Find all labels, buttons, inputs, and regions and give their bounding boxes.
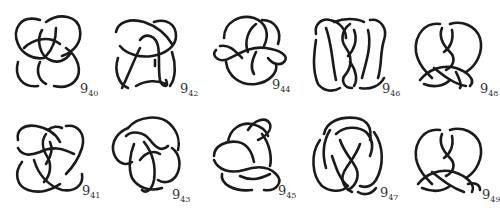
knot-9-44: 944	[200, 0, 300, 104]
knot-label-9-48: 948	[480, 82, 498, 98]
knot-9-47: 947	[300, 104, 400, 208]
knot-9-48: 948	[400, 0, 500, 104]
knot-9-45: 945	[200, 104, 300, 208]
knot-label-9-44: 944	[272, 78, 290, 94]
knot-9-41: 941	[0, 104, 100, 208]
knot-9-46: 946	[300, 0, 400, 104]
knot-9-40: 940	[0, 0, 100, 104]
knot-label-9-46: 946	[382, 82, 400, 98]
knot-9-49: 949	[400, 104, 500, 208]
knot-9-43: 943	[100, 104, 200, 208]
knot-9-42: 942	[100, 0, 200, 104]
knot-label-9-41: 941	[82, 184, 100, 200]
knot-label-9-43: 943	[172, 188, 190, 204]
knot-label-9-49: 949	[482, 188, 500, 204]
knot-label-9-45: 945	[278, 184, 296, 200]
knot-label-9-40: 940	[80, 82, 98, 98]
knot-label-9-42: 942	[180, 82, 198, 98]
knot-label-9-47: 947	[380, 186, 398, 202]
